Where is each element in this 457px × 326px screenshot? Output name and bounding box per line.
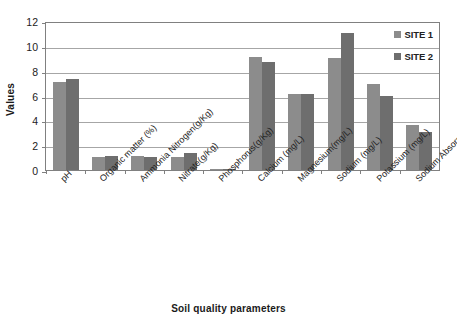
y-axis-tick-label: 4 — [14, 116, 38, 127]
legend-label: SITE 2 — [405, 51, 433, 62]
bar — [171, 157, 184, 170]
bar — [210, 169, 223, 170]
x-axis-tick-label: Sodium Absorption Ratio (SAR) — [414, 177, 421, 184]
bar — [53, 82, 66, 170]
bar — [92, 157, 105, 170]
x-axis-tick-label: Phosphorus(g/Kg) — [216, 177, 223, 184]
legend-swatch-icon — [394, 31, 401, 38]
bar — [341, 33, 354, 170]
bar — [367, 84, 380, 170]
x-axis-tick-label: pH — [58, 177, 65, 184]
legend-label: SITE 1 — [405, 29, 433, 40]
y-axis-tick-label: 2 — [14, 141, 38, 152]
bar — [262, 62, 275, 170]
x-axis-tick-mark — [203, 170, 204, 174]
bar-group — [46, 23, 85, 170]
bar-groups — [46, 23, 439, 170]
bar-chart: Values 024681012 SITE 1SITE 2 pHOrganic … — [0, 0, 457, 326]
y-axis-tick-label: 6 — [14, 92, 38, 103]
x-axis-tick-mark — [164, 170, 165, 174]
bar — [131, 156, 144, 170]
x-axis-tick-label: Nitrate(g/Kg) — [177, 177, 184, 184]
x-axis-tick-label: Potassium (mg/L) — [374, 177, 381, 184]
x-axis-tick-mark — [282, 170, 283, 174]
legend-swatch-icon — [394, 53, 401, 60]
x-axis-tick-mark — [46, 170, 47, 174]
legend: SITE 1SITE 2 — [394, 29, 433, 62]
y-axis-tick-label: 10 — [14, 42, 38, 53]
bar — [288, 94, 301, 170]
x-axis-tick-mark — [125, 170, 126, 174]
plot-area: SITE 1SITE 2 — [45, 22, 440, 171]
x-axis-title: Soil quality parameters — [0, 303, 457, 314]
legend-item: SITE 1 — [394, 29, 433, 40]
bar-group — [85, 23, 124, 170]
x-axis-tick-label: Calcium (mg/L) — [256, 177, 263, 184]
y-axis-tick-label: 12 — [14, 17, 38, 28]
x-axis-tick-mark — [360, 170, 361, 174]
legend-item: SITE 2 — [394, 51, 433, 62]
y-axis-tick-label: 0 — [14, 166, 38, 177]
x-axis-tick-mark — [321, 170, 322, 174]
x-axis-tick-mark — [400, 170, 401, 174]
x-axis-tick-label: Ammonia Nitrogen(g/Kg) — [137, 177, 144, 184]
bar — [66, 79, 79, 170]
x-axis-tick-label: Magnesium(mg/L) — [295, 177, 302, 184]
x-axis-tick-label: Organic matter (%) — [98, 177, 105, 184]
x-axis-tick-label: Sodium (mg/L) — [335, 177, 342, 184]
x-axis-tick-mark — [242, 170, 243, 174]
x-axis-tick-mark — [85, 170, 86, 174]
y-axis-tick-label: 8 — [14, 67, 38, 78]
